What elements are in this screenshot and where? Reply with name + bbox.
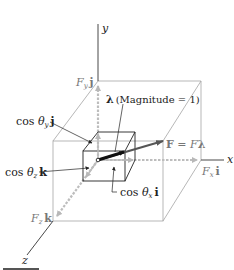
origin-point	[96, 158, 100, 162]
cos-theta-y-label: cos θyj	[16, 115, 55, 129]
vector-diagram: y x z λ(Magnitude = 1) F = Fλ Fy	[0, 0, 234, 270]
x-axis-label: x	[227, 153, 234, 166]
cos-theta-x-label: cos θxi	[120, 186, 159, 200]
fy-label: Fyj	[75, 76, 94, 90]
fz-label: Fzk	[30, 212, 52, 226]
lambda-label: λ(Magnitude = 1)	[106, 93, 200, 106]
fx-label: Fxi	[201, 165, 220, 179]
force-label: F = Fλ	[166, 138, 206, 151]
z-axis-label: z	[21, 254, 28, 267]
z-axis	[27, 221, 53, 255]
y-axis-label: y	[101, 22, 109, 35]
cos-theta-z-label: cos θzk	[5, 166, 47, 180]
